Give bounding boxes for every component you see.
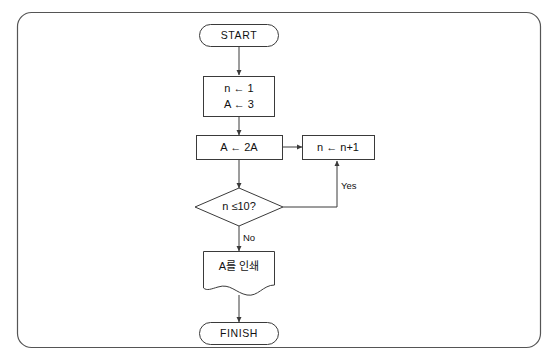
node-init[interactable]: n ← 1 A ← 3 [204,77,275,117]
edge-label-no: No [243,232,255,243]
edge-label-yes: Yes [341,180,357,191]
flowchart-svg: START n ← 1 A ← 3 A ← 2A n ← n+1 n ≤10? … [0,0,558,360]
node-finish[interactable]: FINISH [200,323,279,345]
flowchart-canvas: START n ← 1 A ← 3 A ← 2A n ← n+1 n ≤10? … [0,0,558,360]
node-decision-label: n ≤10? [222,200,256,212]
node-increment[interactable]: n ← n+1 [303,136,375,160]
node-init-line2: A ← 3 [224,98,254,110]
node-finish-label: FINISH [220,327,258,339]
node-print-label: A를 인쇄 [219,260,259,272]
node-increment-label: n ← n+1 [317,141,359,153]
node-start[interactable]: START [200,25,279,47]
node-init-line1: n ← 1 [224,82,253,94]
node-double-label: A ← 2A [220,141,258,153]
diagram-frame [18,13,541,348]
node-print[interactable]: A를 인쇄 [204,252,275,296]
node-double[interactable]: A ← 2A [197,136,283,160]
node-start-label: START [221,29,257,41]
